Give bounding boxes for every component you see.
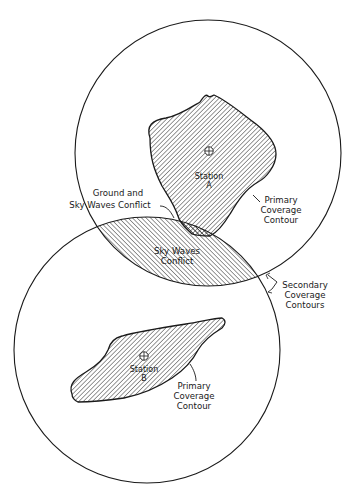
sky-waves-conflict-label-line2: Conflict: [161, 256, 194, 266]
station-b-label-line2: B: [141, 374, 147, 383]
primary-b-label-line1: Primary: [177, 381, 210, 391]
station-b-label-line1: Station: [130, 365, 158, 374]
primary-b-label-line3: Contour: [177, 401, 212, 411]
station-a-label-line2: A: [206, 181, 212, 190]
leader-line: [190, 364, 196, 381]
primary-a-label-line3: Contour: [264, 215, 299, 225]
secondary-label-line3: Contours: [286, 300, 325, 310]
arrow-icon: [268, 289, 272, 293]
station-a-label-line1: Station: [195, 172, 223, 181]
leader-line: [253, 195, 260, 202]
sky-waves-conflict-label-line1: Sky Waves: [154, 246, 201, 256]
primary-b-label-line2: Coverage: [173, 391, 214, 401]
secondary-label-line2: Coverage: [284, 290, 325, 300]
ground-sky-conflict-label-line1: Ground and: [93, 188, 144, 198]
primary-coverage-a: [149, 95, 276, 236]
ground-sky-conflict-label-line2: Sky Waves Conflict: [69, 200, 151, 210]
crosshair-circle-icon: [205, 147, 213, 155]
primary-a-label-line2: Coverage: [260, 205, 301, 215]
crosshair-circle-icon: [140, 352, 148, 360]
diagram-canvas: Station A Station B Ground and Sky Waves…: [0, 0, 349, 499]
leader-line: [160, 206, 174, 218]
coverage-diagram: Station A Station B Ground and Sky Waves…: [0, 0, 349, 499]
bracket-leader: [268, 275, 277, 289]
secondary-label-line1: Secondary: [282, 280, 328, 290]
primary-a-label-line1: Primary: [264, 195, 297, 205]
